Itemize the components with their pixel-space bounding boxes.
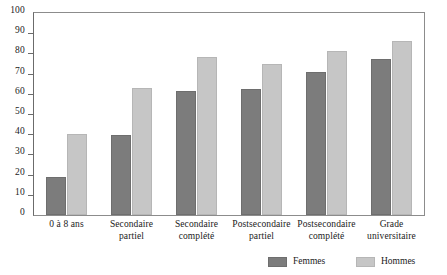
bar-femmes	[46, 177, 66, 215]
legend-label-hommes: Hommes	[381, 257, 415, 267]
bar-hommes	[132, 88, 152, 215]
y-axis-tick-label: 90	[15, 26, 25, 36]
bar-femmes	[241, 89, 261, 215]
legend-swatch-femmes-icon	[268, 257, 287, 267]
bar-hommes	[262, 64, 282, 216]
y-axis-tick-label: 10	[15, 188, 25, 198]
bar-hommes	[197, 57, 217, 215]
bar-group	[46, 13, 87, 215]
bar-femmes	[176, 91, 196, 215]
y-axis-tick-label: 100	[10, 6, 25, 16]
legend-swatch-hommes-icon	[356, 257, 375, 267]
x-axis-label-line: universitaire	[352, 231, 431, 243]
y-axis: 0102030405060708090100	[0, 12, 33, 216]
chart-legend: Femmes Hommes	[268, 256, 443, 270]
y-axis-tick-label: 0	[20, 208, 25, 218]
bar-hommes	[392, 41, 412, 215]
bar-hommes	[67, 134, 87, 215]
bar-group	[306, 13, 347, 215]
y-axis-tick-label: 20	[15, 168, 25, 178]
bar-femmes	[306, 72, 326, 215]
legend-item-hommes: Hommes	[356, 256, 415, 268]
x-axis-label-line: Grade	[352, 219, 431, 231]
y-axis-tick-label: 50	[15, 107, 25, 117]
x-axis-label: Gradeuniversitaire	[352, 219, 431, 242]
bar-group	[241, 13, 282, 215]
bar-group	[111, 13, 152, 215]
y-axis-tick-label: 40	[15, 127, 25, 137]
bar-femmes	[371, 59, 391, 215]
bar-group	[371, 13, 412, 215]
bar-chart: 0102030405060708090100 0 à 8 ansSecondai…	[0, 0, 447, 275]
y-axis-tick-label: 60	[15, 87, 25, 97]
y-axis-tick-label: 80	[15, 46, 25, 56]
bar-femmes	[111, 135, 131, 215]
legend-item-femmes: Femmes	[268, 256, 325, 268]
x-axis-labels: 0 à 8 ansSecondairepartielSecondairecomp…	[34, 219, 424, 253]
y-axis-tick-label: 70	[15, 67, 25, 77]
bar-group	[176, 13, 217, 215]
y-axis-tick-label: 30	[15, 147, 25, 157]
legend-label-femmes: Femmes	[293, 257, 325, 267]
bar-hommes	[327, 51, 347, 215]
bars-container	[34, 13, 424, 215]
